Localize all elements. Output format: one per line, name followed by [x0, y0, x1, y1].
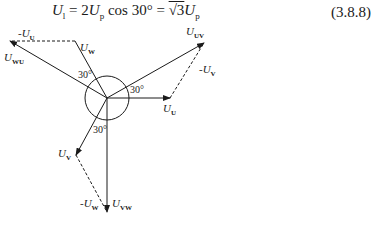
phasor-U-UV	[107, 43, 204, 98]
label-U-V: UV	[58, 148, 71, 162]
angle-label-right: 30°	[130, 84, 144, 95]
label-neg-U-W: -UW	[80, 198, 99, 212]
angle-label-upper: 30°	[78, 69, 92, 80]
label-neg-U-V: -UV	[199, 64, 216, 78]
label-U-VW: UVW	[112, 198, 132, 212]
label-neg-U-U: -UU	[18, 28, 35, 42]
label-U-UV: UUV	[186, 26, 204, 40]
angle-label-lower: 30°	[93, 124, 107, 135]
label-U-U: UU	[163, 103, 176, 117]
label-U-WU: UWU	[4, 52, 24, 66]
label-U-W: UW	[80, 42, 95, 56]
